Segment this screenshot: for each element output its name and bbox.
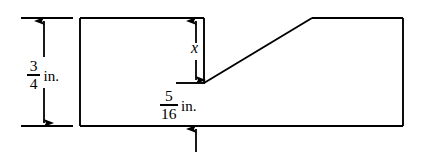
figure-drawing <box>0 0 427 156</box>
part-outline <box>80 18 403 126</box>
overall-height-dimension <box>21 18 73 126</box>
outline-ramp-edge <box>204 18 312 83</box>
figure-root: 3 4 in. x 5 16 in. <box>0 0 427 156</box>
notch-depth-dimension <box>176 21 205 83</box>
